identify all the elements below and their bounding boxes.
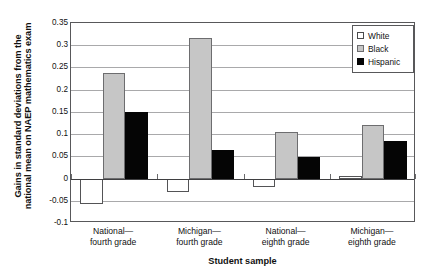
category-label-line: National— — [243, 226, 329, 237]
category-label-line: fourth grade — [70, 237, 156, 248]
legend-label: Hispanic — [368, 57, 400, 67]
category-label-line: fourth grade — [156, 237, 242, 248]
y-axis-title-line-1: Gains in standard deviations from the — [13, 34, 23, 197]
y-axis-tick-label: 0.2 — [40, 84, 68, 93]
y-axis-tick-label: 0.35 — [40, 18, 68, 27]
x-axis-category-label: National—eighth grade — [243, 226, 329, 247]
legend-item-hispanic[interactable]: Hispanic — [357, 55, 409, 68]
legend-item-black[interactable]: Black — [357, 42, 409, 55]
legend-swatch-white-icon — [357, 32, 364, 39]
y-axis-tick-label: 0.05 — [40, 151, 68, 160]
x-axis-category-label: Michigan—fourth grade — [156, 226, 242, 247]
y-axis-tick-labels: 0.350.30.250.20.150.10.050-0.05-0.1 — [40, 22, 68, 222]
category-label-line: Michigan— — [156, 226, 242, 237]
legend-swatch-black-icon — [357, 45, 364, 52]
y-axis-tick-label: 0.1 — [40, 129, 68, 138]
legend-swatch-hispanic-icon — [357, 58, 364, 65]
legend-label: Black — [368, 44, 388, 54]
x-axis-category-labels: National—fourth gradeMichigan—fourth gra… — [70, 226, 415, 256]
category-label-line: Michigan— — [329, 226, 415, 237]
x-axis-title: Student sample — [70, 256, 415, 266]
x-axis-tickmark — [415, 174, 416, 179]
y-axis-title-line-2: national mean on NAEP mathematics exam — [23, 23, 33, 210]
x-axis-category-label: Michigan—eighth grade — [329, 226, 415, 247]
legend-label: White — [368, 31, 389, 41]
legend: WhiteBlackHispanic — [352, 25, 414, 73]
category-label-line: eighth grade — [243, 237, 329, 248]
x-axis-category-label: National—fourth grade — [70, 226, 156, 247]
category-label-line: National— — [70, 226, 156, 237]
y-axis-tick-label: 0.25 — [40, 62, 68, 71]
y-axis-tick-label: -0.1 — [40, 218, 68, 227]
bar-chart-figure: Gains in standard deviations from the na… — [0, 0, 429, 280]
zero-line — [71, 179, 414, 180]
y-axis-tick-label: -0.05 — [40, 195, 68, 204]
y-axis-tick-label: 0.15 — [40, 106, 68, 115]
legend-item-white[interactable]: White — [357, 29, 409, 42]
y-axis-tick-label: 0.3 — [40, 40, 68, 49]
category-label-line: eighth grade — [329, 237, 415, 248]
y-axis-tick-label: 0 — [40, 173, 68, 182]
